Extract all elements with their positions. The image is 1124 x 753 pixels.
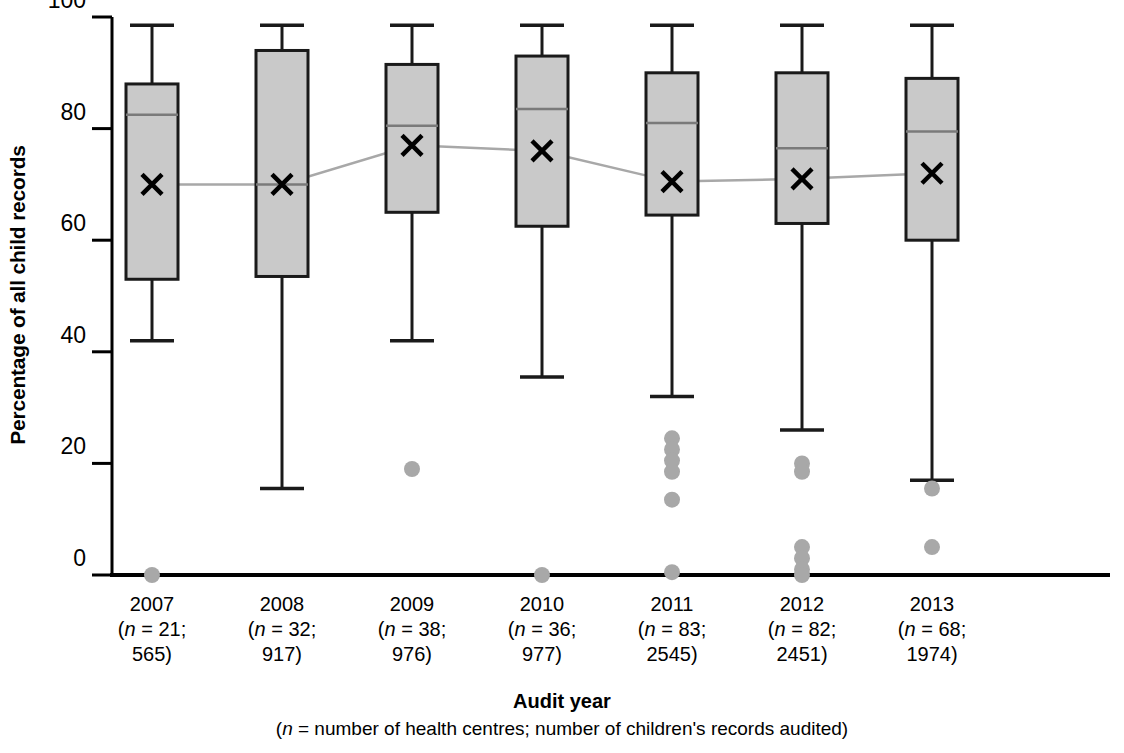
- x-tick-n-centres: (n = 82;: [737, 617, 867, 642]
- x-tick-n-centres: (n = 83;: [607, 617, 737, 642]
- outlier-point: [664, 464, 680, 480]
- outlier-point: [794, 464, 810, 480]
- plot-area: [0, 0, 1124, 600]
- x-tick-n-records: 976): [347, 642, 477, 667]
- box-iqr: [646, 73, 698, 215]
- box-plot-group: [906, 25, 958, 555]
- y-axis-tick-label: 40: [26, 322, 86, 349]
- x-tick-n-records: 1974): [867, 642, 997, 667]
- x-tick-n-records: 2545): [607, 642, 737, 667]
- x-tick-n-centres: (n = 38;: [347, 617, 477, 642]
- box-iqr: [256, 50, 308, 276]
- box-plot-group: [126, 25, 178, 583]
- x-tick-year: 2010: [477, 592, 607, 617]
- box-plot-group: [776, 25, 828, 583]
- outlier-point: [924, 481, 940, 497]
- y-axis-tick-label: 80: [26, 99, 86, 126]
- x-axis-tick-label: 2009(n = 38;976): [347, 592, 477, 667]
- y-axis-tick-label: 20: [26, 433, 86, 460]
- x-axis-tick-label: 2012(n = 82;2451): [737, 592, 867, 667]
- x-axis-title: Audit year: [0, 690, 1124, 713]
- y-axis-tick-label: 60: [26, 210, 86, 237]
- x-axis-tick-label: 2007(n = 21;565): [87, 592, 217, 667]
- x-tick-year: 2009: [347, 592, 477, 617]
- x-tick-year: 2011: [607, 592, 737, 617]
- x-tick-n-records: 565): [87, 642, 217, 667]
- box-plot-group: [646, 25, 698, 580]
- x-tick-year: 2012: [737, 592, 867, 617]
- x-tick-year: 2008: [217, 592, 347, 617]
- box-plot-group: [516, 25, 568, 583]
- x-tick-n-records: 977): [477, 642, 607, 667]
- x-axis-tick-label: 2008(n = 32;917): [217, 592, 347, 667]
- x-tick-n-centres: (n = 32;: [217, 617, 347, 642]
- outlier-point: [144, 567, 160, 583]
- outlier-point: [794, 567, 810, 583]
- box-plot-figure: Percentage of all child records 2007(n =…: [0, 0, 1124, 753]
- x-axis-tick-label: 2011(n = 83;2545): [607, 592, 737, 667]
- box-iqr: [516, 56, 568, 226]
- x-tick-n-centres: (n = 21;: [87, 617, 217, 642]
- outlier-point: [664, 492, 680, 508]
- outlier-point: [534, 567, 550, 583]
- x-tick-year: 2013: [867, 592, 997, 617]
- x-tick-year: 2007: [87, 592, 217, 617]
- outlier-point: [664, 564, 680, 580]
- y-axis-tick-label: 0: [26, 545, 86, 572]
- box-iqr: [386, 64, 438, 212]
- x-tick-n-centres: (n = 36;: [477, 617, 607, 642]
- y-axis-tick-label: 100: [26, 0, 86, 14]
- x-tick-n-centres: (n = 68;: [867, 617, 997, 642]
- box-plot-group: [256, 25, 308, 488]
- box-iqr: [906, 78, 958, 240]
- x-tick-n-records: 2451): [737, 642, 867, 667]
- x-tick-n-records: 917): [217, 642, 347, 667]
- outlier-point: [924, 539, 940, 555]
- outlier-point: [404, 461, 420, 477]
- box-plot-group: [386, 25, 438, 477]
- x-axis-tick-label: 2013(n = 68;1974): [867, 592, 997, 667]
- x-axis-note: (n = number of health centres; number of…: [0, 718, 1124, 740]
- x-axis-tick-label: 2010(n = 36;977): [477, 592, 607, 667]
